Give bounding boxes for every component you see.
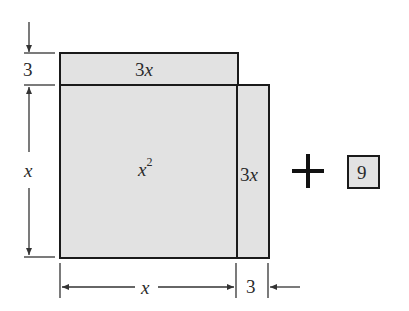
dim-bottom-right-label: 3 xyxy=(246,277,256,296)
right-strip-label: 3x xyxy=(240,165,258,184)
dim-bottom-main-label: x xyxy=(141,278,149,297)
plus-sign xyxy=(292,154,324,188)
right-strip-coef: 3 xyxy=(240,164,250,185)
right-strip-var: x xyxy=(250,164,258,185)
dim-left-main-label: x xyxy=(24,161,32,180)
dim-left-top-label: 3 xyxy=(23,60,33,79)
top-strip-coef: 3 xyxy=(135,59,145,80)
square-exponent: 2 xyxy=(146,155,152,169)
unit-square-label: 9 xyxy=(357,163,367,182)
top-strip-label: 3x xyxy=(135,60,153,79)
square-label: x2 xyxy=(138,160,152,179)
top-strip-var: x xyxy=(145,59,153,80)
